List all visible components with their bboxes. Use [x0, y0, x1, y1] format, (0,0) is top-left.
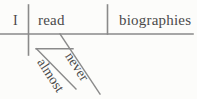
verb-word: read — [38, 13, 65, 28]
subject-word: I — [13, 14, 18, 28]
direct-object-word: biographies — [119, 13, 191, 28]
sentence-diagram: I read biographies never almost — [0, 0, 197, 99]
